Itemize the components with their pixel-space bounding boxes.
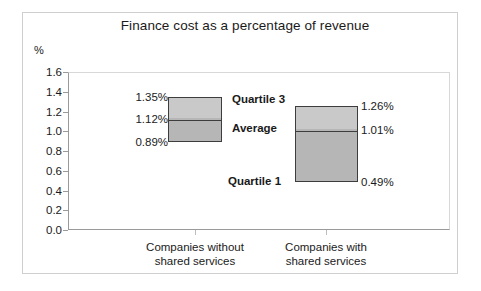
chart-container: Finance cost as a percentage of revenue … [0,0,481,291]
x-axis-label-line-2: shared services [266,254,386,268]
y-tick-label-0.6: 0.6 [34,165,62,177]
box-lower-segment [169,118,221,141]
y-tick-label-1.0: 1.0 [34,125,62,137]
average-line [296,131,357,132]
value-label-left-q1: 0.89% [123,136,168,148]
chart-title: Finance cost as a percentage of revenue [60,18,430,33]
y-tick-label-0.2: 0.2 [34,204,62,216]
x-tick-mark-1 [195,230,196,235]
x-tick-mark-2 [326,230,327,235]
annotation-quartile-1: Quartile 1 [228,175,281,187]
y-tick-mark-0.0 [63,230,68,231]
average-line [169,120,221,121]
y-axis-labels: 1.6 1.4 1.2 1.0 0.8 0.6 0.4 0.2 0.0 [30,0,62,291]
x-axis-label-line-1: Companies with [266,240,386,254]
box-upper-segment [296,107,357,132]
y-tick-label-1.6: 1.6 [34,66,62,78]
x-axis-label-line-2: shared services [130,254,260,268]
y-tick-label-1.4: 1.4 [34,86,62,98]
value-label-left-q3: 1.35% [123,91,168,103]
annotation-average: Average [232,122,277,134]
box-companies-without-shared-services[interactable] [168,97,222,142]
value-label-left-average: 1.12% [123,113,168,125]
value-label-right-average: 1.01% [361,124,394,136]
box-companies-with-shared-services[interactable] [295,106,358,182]
x-axis-label-companies-with-shared-services: Companies with shared services [266,240,386,268]
value-label-right-q3: 1.26% [361,100,394,112]
x-axis-label-line-1: Companies without [130,240,260,254]
y-tick-label-0.0: 0.0 [34,224,62,236]
box-upper-segment [169,98,221,121]
y-tick-label-0.4: 0.4 [34,185,62,197]
value-label-right-q1: 0.49% [361,176,394,188]
y-tick-label-0.8: 0.8 [34,145,62,157]
box-lower-segment [296,129,357,180]
annotation-quartile-3: Quartile 3 [232,93,285,105]
y-tick-label-1.2: 1.2 [34,106,62,118]
x-axis-label-companies-without-shared-services: Companies without shared services [130,240,260,268]
